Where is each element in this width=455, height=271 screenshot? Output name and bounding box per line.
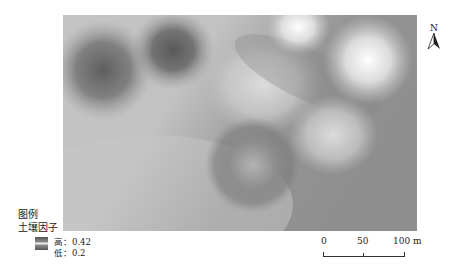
raster-surface: [63, 15, 417, 231]
north-label: N: [427, 24, 441, 33]
legend-layer-name: 土壤因子: [18, 221, 58, 234]
map-raster: [63, 15, 417, 231]
north-arrow: N: [427, 24, 441, 53]
scale-bar: 0 50 100 m: [318, 236, 428, 266]
north-arrow-icon: [427, 33, 441, 49]
legend: 图例 土壤因子: [18, 208, 58, 234]
scale-tick-50: 50: [357, 236, 368, 246]
scale-bar-midtick: [363, 253, 364, 256]
legend-gradient-swatch: [35, 237, 48, 250]
scale-tick-0: 0: [321, 236, 327, 246]
scale-bar-line: [323, 252, 405, 257]
scale-tick-100: 100 m: [393, 236, 422, 246]
legend-low-label: 低：0.2: [54, 246, 86, 258]
legend-title: 图例: [18, 208, 58, 221]
